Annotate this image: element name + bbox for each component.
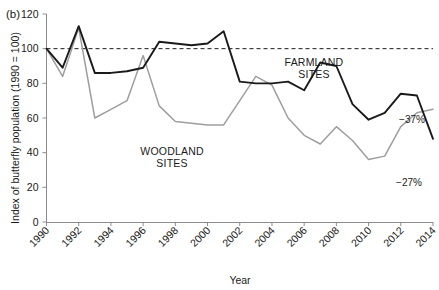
farmland-label-2: SITES xyxy=(298,68,329,80)
woodland-pct: −37% xyxy=(399,114,425,125)
y-tick-group: 020406080100120 xyxy=(21,8,47,228)
chart-figure: (b) Index of butterfly population (1990 … xyxy=(0,0,439,290)
x-tick-label-2006: 2006 xyxy=(284,224,309,249)
x-tick-label-2002: 2002 xyxy=(220,224,245,249)
x-tick-label-2004: 2004 xyxy=(252,224,277,249)
butterfly-population-line-chart: (b) Index of butterfly population (1990 … xyxy=(0,0,439,290)
x-tick-label-2000: 2000 xyxy=(187,224,212,249)
x-tick-label-2008: 2008 xyxy=(316,224,341,249)
woodland-label: WOODLAND xyxy=(140,145,204,157)
woodland-sites-line xyxy=(47,28,434,160)
y-axis-title: Index of butterfly population (1990 = 10… xyxy=(9,32,21,224)
y-tick-label-40: 40 xyxy=(27,146,39,158)
x-tick-label-2012: 2012 xyxy=(381,224,406,249)
farmland-label: FARMLAND xyxy=(285,56,344,68)
x-tick-label-1996: 1996 xyxy=(123,224,148,249)
x-tick-group: 1990199219941996199820002002200420062008… xyxy=(26,222,438,249)
y-tick-label-0: 0 xyxy=(33,216,39,228)
x-tick-label-1994: 1994 xyxy=(91,224,116,249)
y-tick-label-100: 100 xyxy=(21,42,39,54)
panel-label: (b) xyxy=(6,8,20,20)
woodland-label-2: SITES xyxy=(156,157,187,169)
farmland-sites-line xyxy=(47,26,434,139)
x-tick-label-2014: 2014 xyxy=(413,224,438,249)
y-tick-label-120: 120 xyxy=(21,8,39,20)
farmland-pct: −27% xyxy=(396,177,422,188)
y-tick-label-20: 20 xyxy=(27,181,39,193)
x-tick-label-1990: 1990 xyxy=(26,224,51,249)
x-tick-label-1998: 1998 xyxy=(155,224,180,249)
x-axis: 1990199219941996199820002002200420062008… xyxy=(26,222,438,249)
x-axis-title: Year xyxy=(229,274,251,286)
y-axis: 020406080100120 xyxy=(21,8,47,228)
x-tick-label-1992: 1992 xyxy=(59,224,84,249)
y-tick-label-60: 60 xyxy=(27,112,39,124)
y-tick-label-80: 80 xyxy=(27,77,39,89)
x-tick-label-2010: 2010 xyxy=(348,224,373,249)
